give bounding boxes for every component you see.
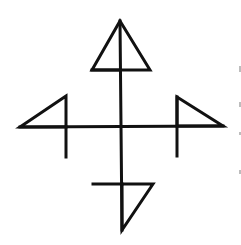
cross-flag-diagram bbox=[0, 0, 241, 245]
flag-triangle-right bbox=[177, 97, 223, 126]
edge-mark bbox=[239, 132, 241, 135]
flag-triangle-bottom bbox=[122, 184, 153, 230]
edge-mark bbox=[239, 170, 241, 174]
edge-mark bbox=[239, 102, 241, 107]
flag-triangle-left bbox=[20, 96, 66, 127]
edge-artifact-marks bbox=[237, 0, 241, 245]
edge-mark bbox=[239, 66, 241, 72]
